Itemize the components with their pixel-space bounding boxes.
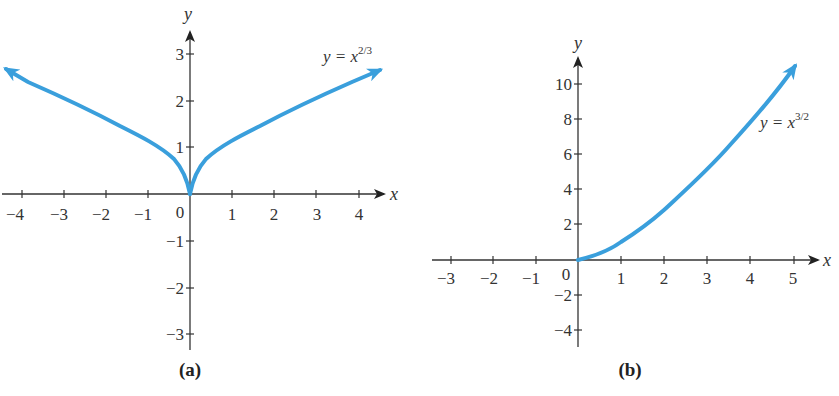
- tick-label: 0: [562, 265, 571, 284]
- caption-b: (b): [618, 359, 641, 381]
- curve-b: [578, 66, 795, 260]
- tick-label: 2: [176, 92, 185, 111]
- tick-label: −4: [554, 321, 573, 340]
- tick-label: 4: [355, 205, 364, 224]
- y-axis-label-a: y: [182, 4, 192, 24]
- x-axis-label-b: x: [822, 250, 831, 270]
- chart-a: −4 −3 −2 −1 0 1 2 3 4 −3 −2 −1 1 2 3 x y…: [2, 4, 398, 381]
- x-axis-label-a: x: [389, 184, 398, 204]
- tick-label: 3: [176, 45, 185, 64]
- chart-b: −3 −2 −1 0 1 2 3 4 5 −4 −2 2 4 6 8 10 x …: [432, 33, 831, 381]
- tick-label: 1: [228, 205, 237, 224]
- curve-a-left: [6, 69, 190, 194]
- equation-b: y = x3/2: [758, 110, 809, 132]
- tick-label: 3: [703, 269, 712, 288]
- tick-label: 1: [617, 269, 626, 288]
- tick-label: −2: [554, 286, 572, 305]
- tick-label: −2: [480, 269, 498, 288]
- tick-label: 8: [564, 110, 573, 129]
- tick-label: −2: [92, 205, 110, 224]
- x-tick-labels-a: −4 −3 −2 −1 0 1 2 3 4: [6, 203, 364, 224]
- tick-label: −1: [166, 232, 184, 251]
- tick-label: 2: [564, 215, 573, 234]
- tick-label: 1: [176, 138, 185, 157]
- tick-label: 0: [176, 203, 185, 222]
- tick-label: −3: [50, 205, 68, 224]
- figure: −4 −3 −2 −1 0 1 2 3 4 −3 −2 −1 1 2 3 x y…: [0, 0, 839, 396]
- equation-a: y = x2/3: [321, 44, 373, 66]
- caption-a: (a): [179, 359, 201, 381]
- tick-label: 4: [746, 269, 755, 288]
- tick-label: −1: [522, 269, 540, 288]
- tick-label: −4: [6, 205, 25, 224]
- tick-label: 2: [660, 269, 669, 288]
- x-tick-labels-b: −3 −2 −1 0 1 2 3 4 5: [437, 265, 797, 288]
- tick-label: 6: [564, 145, 573, 164]
- tick-label: −2: [166, 279, 184, 298]
- tick-label: 10: [555, 75, 572, 94]
- y-axis-label-b: y: [572, 33, 582, 53]
- tick-label: 2: [270, 205, 279, 224]
- tick-label: −1: [134, 205, 152, 224]
- tick-label: −3: [437, 269, 455, 288]
- curve-a-right: [190, 70, 380, 194]
- y-tick-labels-b: −4 −2 2 4 6 8 10: [554, 75, 573, 340]
- tick-label: −3: [166, 325, 184, 344]
- tick-label: 3: [313, 205, 322, 224]
- tick-label: 5: [789, 269, 798, 288]
- tick-label: 4: [564, 180, 573, 199]
